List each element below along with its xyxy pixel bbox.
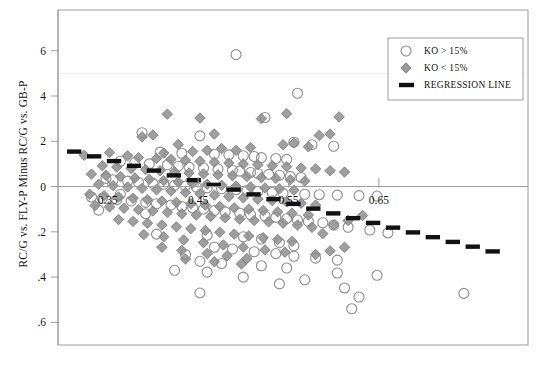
- data-point-circle: [220, 207, 230, 217]
- data-point-circle: [332, 255, 342, 265]
- data-point-circle: [141, 197, 151, 207]
- data-point-circle: [155, 147, 165, 157]
- data-point-circle: [159, 179, 169, 189]
- data-point-circle: [249, 247, 259, 257]
- data-point-circle: [303, 216, 313, 226]
- data-point-circle: [293, 215, 303, 225]
- data-point-circle: [231, 50, 241, 60]
- data-point-circle: [238, 232, 248, 242]
- data-point-circle: [289, 241, 299, 251]
- data-point-circle: [209, 242, 219, 252]
- data-point-circle: [256, 153, 266, 163]
- data-point-circle: [314, 190, 324, 200]
- data-point-circle: [227, 244, 237, 254]
- data-point-circle: [217, 259, 227, 269]
- data-point-circle: [274, 238, 284, 248]
- data-point-circle: [274, 170, 284, 180]
- data-point-circle: [123, 176, 133, 186]
- y-axis-label: RC/G vs. FLY-P Minus RC/G vs. GB-P: [17, 44, 29, 304]
- data-point-circle: [126, 196, 136, 206]
- data-point-circle: [332, 268, 342, 278]
- data-point-circle: [202, 267, 212, 277]
- data-point-circle: [282, 154, 292, 164]
- y-axis-tick-label: 2: [40, 135, 46, 147]
- data-point-circle: [108, 175, 118, 185]
- data-point-circle: [133, 177, 143, 187]
- data-point-circle: [141, 209, 151, 219]
- data-point-circle: [209, 206, 219, 216]
- data-point-circle: [162, 160, 172, 170]
- data-point-circle: [238, 272, 248, 282]
- y-axis-tick-label: .2: [37, 226, 46, 238]
- data-point-circle: [86, 192, 96, 202]
- data-point-circle: [177, 148, 187, 158]
- data-point-circle: [253, 168, 263, 178]
- data-point-circle: [94, 205, 104, 215]
- data-point-circle: [137, 128, 147, 138]
- data-point-circle: [300, 275, 310, 285]
- data-point-circle: [170, 265, 180, 275]
- legend-layer[interactable]: KO > 15%KO < 15%REGRESSION LINE: [388, 38, 523, 100]
- data-point-circle: [285, 171, 295, 181]
- data-point-circle: [372, 270, 382, 280]
- data-point-circle: [199, 204, 209, 214]
- y-axis-tick-label: 4: [40, 90, 46, 102]
- data-point-circle: [246, 210, 256, 220]
- data-point-circle: [329, 141, 339, 151]
- y-axis-tick-label: .6: [37, 316, 46, 328]
- scatter-plot-figure: RC/G vs. FLY-P Minus RC/G vs. GB-P 6420.…: [0, 0, 540, 365]
- data-point-circle: [260, 211, 270, 221]
- data-point-circle: [256, 261, 266, 271]
- data-point-circle: [365, 225, 375, 235]
- legend-label-2[interactable]: KO < 15%: [424, 63, 468, 73]
- data-point-circle: [300, 189, 310, 199]
- data-point-circle: [318, 218, 328, 228]
- data-point-circle: [343, 222, 353, 232]
- data-point-circle: [289, 137, 299, 147]
- data-point-circle: [329, 220, 339, 230]
- data-point-circle: [340, 283, 350, 293]
- data-point-circle: [170, 180, 180, 190]
- data-point-circle: [271, 212, 281, 222]
- data-point-circle: [264, 169, 274, 179]
- y-axis-tick-label: 0: [40, 181, 46, 193]
- data-point-circle: [202, 230, 212, 240]
- x-axis-tick-label: 0.35: [98, 194, 118, 206]
- data-point-circle: [152, 199, 162, 209]
- data-point-circle: [274, 279, 284, 289]
- data-point-circle: [199, 163, 209, 173]
- data-point-circle: [209, 149, 219, 159]
- data-point-circle: [173, 161, 183, 171]
- legend-label-3[interactable]: REGRESSION LINE: [424, 80, 511, 90]
- data-point-circle: [213, 164, 223, 174]
- data-point-circle: [282, 263, 292, 273]
- data-point-circle: [144, 159, 154, 169]
- data-point-circle: [296, 173, 306, 183]
- x-axis-tick-label: 0.55: [278, 194, 298, 206]
- data-point-circle: [271, 249, 281, 259]
- data-point-circle: [332, 190, 342, 200]
- data-point-circle: [195, 256, 205, 266]
- data-point-circle: [311, 253, 321, 263]
- data-point-circle: [307, 140, 317, 150]
- data-point-circle: [166, 200, 176, 210]
- data-point-circle: [177, 201, 187, 211]
- legend-label-1[interactable]: KO > 15%: [424, 46, 468, 56]
- data-point-circle: [235, 166, 245, 176]
- y-axis-tick-label: 6: [40, 45, 46, 57]
- y-axis-tick-label: .4: [37, 271, 46, 283]
- data-point-circle: [282, 214, 292, 224]
- data-point-circle: [238, 151, 248, 161]
- data-point-circle: [180, 249, 190, 259]
- x-axis-tick-label: 0.45: [188, 194, 208, 206]
- data-point-circle: [347, 304, 357, 314]
- data-point-circle: [256, 234, 266, 244]
- data-point-circle: [235, 208, 245, 218]
- data-point-circle: [354, 292, 364, 302]
- data-point-circle: [267, 187, 277, 197]
- plot-canvas: 6420.2.4.60.350.450.550.65 KO > 15%KO < …: [0, 0, 540, 365]
- data-point-circle: [152, 229, 162, 239]
- data-point-circle: [195, 131, 205, 141]
- data-point-circle: [271, 153, 281, 163]
- x-axis-tick-label: 0.65: [369, 194, 389, 206]
